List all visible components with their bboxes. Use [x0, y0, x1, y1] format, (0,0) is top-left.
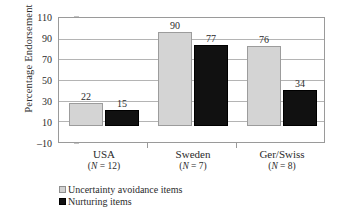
y-tick-label: 70	[42, 53, 52, 64]
legend-item-nurturing[interactable]: Nurturing items	[59, 195, 182, 207]
x-category-name: Ger/Swiss	[259, 148, 304, 160]
y-tick-label: –10	[37, 138, 52, 149]
y-tick-label: 30	[42, 96, 52, 107]
plot-area: 22 15 90 77 76 3	[58, 17, 325, 143]
bar-value-label: 15	[117, 98, 127, 109]
legend: Uncertainty avoidance items Nurturing it…	[59, 183, 182, 207]
x-category-name: Sweden	[176, 148, 211, 160]
bar-sweden-uncertainty[interactable]: 90	[158, 32, 192, 127]
bar-value-label: 77	[206, 33, 216, 44]
x-label-usa: USA (N = 12)	[88, 148, 120, 171]
bar-usa-uncertainty[interactable]: 22	[69, 103, 103, 126]
legend-swatch-icon	[59, 186, 66, 193]
bar-chart-figure: Percentage Endorsement 110 90 70 50 30 1…	[0, 0, 339, 218]
y-axis-tick-labels: 110 90 70 50 30 10 –10	[22, 17, 52, 143]
x-label-sweden: Sweden (N = 7)	[176, 148, 211, 171]
legend-label: Uncertainty avoidance items	[68, 184, 182, 195]
bar-value-label: 34	[295, 78, 305, 89]
bar-value-label: 90	[170, 20, 180, 31]
bar-value-label: 76	[259, 34, 269, 45]
x-axis-labels: USA (N = 12) Sweden (N = 7) Ger/Swiss (N…	[58, 148, 325, 182]
legend-swatch-icon	[59, 198, 66, 205]
bar-gerswiss-nurturing[interactable]: 34	[283, 90, 317, 126]
legend-label: Nurturing items	[68, 196, 132, 207]
y-tick-label: 90	[42, 33, 52, 44]
x-category-name: USA	[88, 148, 120, 160]
bar-usa-nurturing[interactable]: 15	[105, 110, 139, 126]
y-tick-label: 10	[42, 116, 52, 127]
y-tick-label: 110	[37, 12, 52, 23]
bars-layer: 22 15 90 77 76 3	[59, 18, 324, 142]
x-category-n: (N = 8)	[259, 161, 304, 171]
x-category-n: (N = 12)	[88, 161, 120, 171]
bar-value-label: 22	[81, 91, 91, 102]
legend-item-uncertainty[interactable]: Uncertainty avoidance items	[59, 183, 182, 195]
bar-gerswiss-uncertainty[interactable]: 76	[247, 46, 281, 126]
bar-sweden-nurturing[interactable]: 77	[194, 45, 228, 126]
x-category-n: (N = 7)	[176, 161, 211, 171]
y-tick-label: 50	[42, 75, 52, 86]
x-label-ger-swiss: Ger/Swiss (N = 8)	[259, 148, 304, 171]
